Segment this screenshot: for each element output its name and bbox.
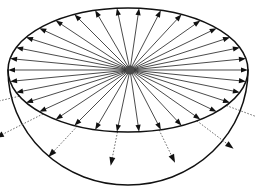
arrow-head-bowl-1 (0, 131, 4, 138)
arrow-head-rim-27 (155, 122, 161, 129)
arrow-head-rim-14 (26, 37, 33, 42)
arrow-head-rim-3 (223, 37, 230, 42)
ray-solid-21 (45, 70, 130, 109)
arrow-head-rim-8 (135, 8, 140, 15)
ray-dotted-0 (0, 96, 19, 109)
ray-dotted-5 (197, 121, 228, 144)
arrow-head-rim-31 (223, 98, 230, 103)
dotted-ray-group (0, 96, 256, 166)
figure-root: Radial vector field on a hemispherical d… (0, 0, 256, 193)
arrow-head-rim-24 (95, 122, 101, 129)
arrow-head-rim-10 (95, 10, 101, 17)
arrow-head-rim-0 (241, 67, 248, 72)
ray-solid-4 (130, 31, 211, 70)
ray-dotted-3 (112, 132, 117, 158)
arrow-head-rim-20 (26, 98, 33, 103)
arrow-head-rim-12 (56, 21, 63, 27)
ray-dotted-2 (54, 126, 78, 151)
arrow-head-rim-26 (135, 124, 140, 131)
arrow-head-rim-30 (209, 106, 216, 111)
arrow-head-rim-25 (116, 124, 121, 131)
arrow-head-rim-9 (116, 8, 121, 15)
arrow-head-rim-13 (39, 28, 46, 33)
arrow-head-rim-7 (155, 10, 161, 17)
ray-solid-13 (45, 31, 130, 70)
arrow-head-bowl-3 (109, 157, 115, 166)
arrow-head-rim-5 (193, 21, 200, 27)
ray-dotted-1 (2, 114, 43, 135)
ray-dotted-4 (159, 130, 172, 156)
ray-solid-30 (130, 70, 211, 109)
origin-hub (126, 66, 135, 75)
radial-field-diagram: Radial vector field on a hemispherical d… (0, 0, 256, 193)
arrow-head-rim-21 (39, 106, 46, 111)
arrow-head-bowl-4 (169, 154, 175, 163)
ray-solid-25 (118, 70, 130, 125)
origin-hub-group (126, 66, 135, 75)
arrow-head-bowl-5 (225, 141, 234, 149)
arrow-head-rim-22 (56, 113, 63, 119)
arrow-head-rim-4 (209, 28, 216, 33)
arrow-head-rim-29 (193, 113, 200, 119)
arrow-head-rim-17 (8, 67, 15, 72)
ray-solid-9 (118, 15, 130, 70)
